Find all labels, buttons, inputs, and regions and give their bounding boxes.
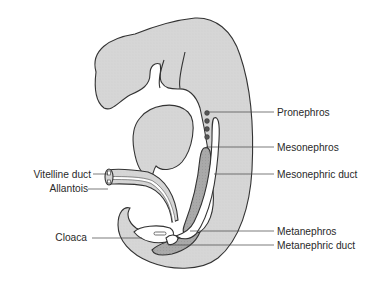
gut-tubes — [105, 169, 178, 222]
embryo-diagram: Pronephros Mesonephros Mesonephric duct … — [0, 0, 385, 281]
label-metanephric-duct: Metanephric duct — [277, 240, 355, 251]
label-metanephros: Metanephros — [277, 226, 336, 237]
label-pronephros: Pronephros — [277, 107, 330, 118]
label-cloaca: Cloaca — [55, 232, 87, 243]
heart-bulge — [133, 105, 193, 176]
label-allantois: Allantois — [49, 183, 88, 194]
label-mesonephros: Mesonephros — [277, 142, 339, 153]
label-mesonephric-duct: Mesonephric duct — [277, 169, 358, 180]
label-vitelline-duct: Vitelline duct — [33, 169, 91, 180]
